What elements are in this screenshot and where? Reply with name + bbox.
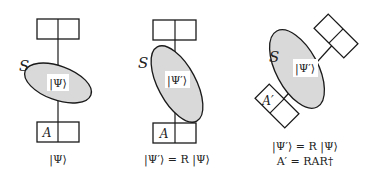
top-apparatus-box	[37, 19, 79, 39]
caption-line-1: |Ψ′⟩ = R |Ψ⟩	[272, 140, 338, 154]
observable-label: A′	[261, 94, 274, 108]
state-label: |Ψ⟩	[49, 77, 67, 91]
caption: |Ψ′⟩ = R |Ψ⟩	[144, 153, 210, 167]
diagram-canvas: |Ψ⟩ S A |Ψ⟩ |Ψ′⟩ S A |Ψ′⟩ = R |Ψ⟩	[0, 0, 379, 177]
observable-label: A	[42, 126, 52, 140]
system-label: S	[19, 57, 29, 75]
state-label: |Ψ′⟩	[167, 74, 187, 88]
caption: |Ψ⟩	[49, 153, 67, 167]
state-label: |Ψ′⟩	[295, 62, 315, 76]
top-apparatus-box	[153, 20, 196, 40]
panel-rotated-state: |Ψ′⟩ S A |Ψ′⟩ = R |Ψ⟩	[138, 20, 213, 167]
system-label: S	[269, 48, 279, 66]
observable-label: A	[159, 127, 169, 141]
caption-line-2: A′ = RAR†	[276, 155, 334, 168]
panel-rotated-state-and-apparatus: |Ψ′⟩ S A′ |Ψ′⟩ = R |Ψ⟩ A′ = RAR†	[255, 14, 358, 168]
top-apparatus-box	[314, 14, 358, 58]
panel-original: |Ψ⟩ S A |Ψ⟩	[19, 19, 97, 167]
system-label: S	[138, 54, 148, 72]
